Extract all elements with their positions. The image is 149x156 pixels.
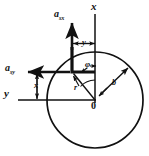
r-radius-label: r (74, 84, 77, 92)
y-dimension-label: y (82, 38, 86, 47)
asx-vector-label: asx (54, 9, 64, 21)
figure-canvas: x y asx asy y x r b φ 0 (0, 0, 149, 156)
x-dimension-label: x (34, 81, 38, 90)
phi-angle-label: φ (85, 60, 90, 69)
asy-vector-label: asy (5, 63, 15, 75)
asy-subscript: sy (10, 68, 15, 75)
origin-label: 0 (91, 101, 96, 111)
asx-subscript: sx (59, 14, 64, 21)
diagram-svg (0, 0, 149, 156)
offset-elbow (72, 47, 95, 72)
b-radius-arrow-tail (99, 88, 107, 96)
axis-y-label: y (4, 88, 9, 99)
axis-x-label: x (91, 1, 97, 12)
b-radius-label: b (112, 79, 116, 87)
